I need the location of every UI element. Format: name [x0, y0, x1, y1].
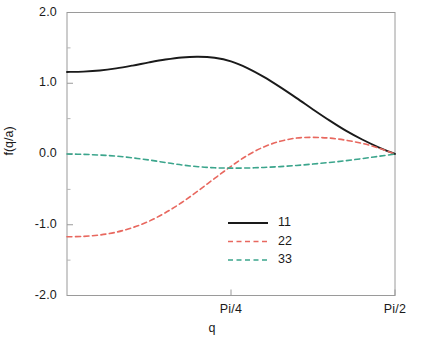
x-tick-label-pi-over-2: Pi/2	[355, 302, 424, 316]
data-curves	[67, 57, 395, 237]
chart-figure: 2.0 1.0 0.0 -1.0 -2.0 Pi/4 Pi/2 f(q/a) q…	[0, 0, 424, 340]
y-axis-title: f(q/a)	[2, 126, 16, 155]
plot-canvas	[0, 0, 424, 340]
legend-sample-lines	[228, 223, 268, 260]
curve-11	[67, 57, 395, 154]
curve-22	[67, 137, 395, 236]
y-tick-label-1: 1.0	[0, 75, 57, 89]
x-tick-label-pi-over-4: Pi/4	[191, 302, 271, 316]
axis-ticks	[67, 13, 395, 296]
legend-label-22: 22	[278, 234, 292, 248]
y-tick-label-neg1: -1.0	[0, 217, 57, 231]
legend-label-11: 11	[278, 215, 291, 229]
y-tick-label-neg2: -2.0	[0, 288, 57, 302]
legend-label-33: 33	[278, 252, 292, 266]
x-axis-title: q	[209, 321, 216, 335]
x-axis-title-wrap: q	[0, 318, 424, 336]
plot-frame	[67, 13, 395, 296]
y-tick-label-2: 2.0	[0, 5, 57, 19]
y-axis-title-wrap: f(q/a)	[0, 111, 17, 171]
